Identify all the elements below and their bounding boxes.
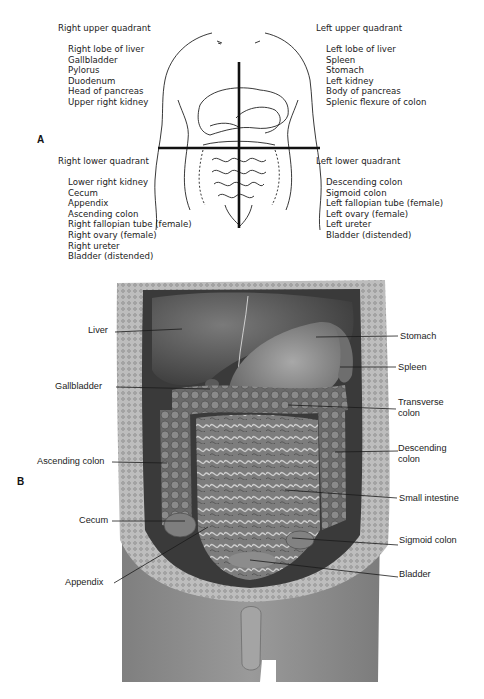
cecum-shape	[164, 513, 196, 537]
label-gallbladder: Gallbladder	[55, 381, 102, 392]
label-appendix: Appendix	[65, 577, 103, 588]
label-bladder: Bladder	[399, 569, 431, 580]
label-ascending-colon: Ascending colon	[37, 456, 104, 467]
label-transverse-line2: colon	[398, 408, 444, 419]
label-stomach: Stomach	[400, 331, 436, 342]
label-transverse-colon: Transverse colon	[398, 397, 444, 419]
descending-colon-shape	[318, 405, 346, 530]
genital-shape	[241, 607, 261, 671]
label-cecum: Cecum	[79, 515, 108, 526]
label-sigmoid-colon: Sigmoid colon	[399, 535, 457, 546]
ascending-colon-shape	[160, 410, 192, 530]
label-descending-line1: Descending	[398, 443, 447, 454]
label-liver: Liver	[88, 325, 108, 336]
label-transverse-line1: Transverse	[398, 397, 444, 408]
label-descending-line2: colon	[398, 454, 447, 465]
panel-letter-b: B	[17, 476, 24, 487]
label-small-intestine: Small intestine	[399, 493, 459, 504]
abdominal-cavity-illustration	[0, 0, 484, 699]
label-descending-colon: Descending colon	[398, 443, 447, 465]
sigmoid-colon-shape	[286, 531, 314, 549]
label-spleen: Spleen	[398, 362, 427, 373]
